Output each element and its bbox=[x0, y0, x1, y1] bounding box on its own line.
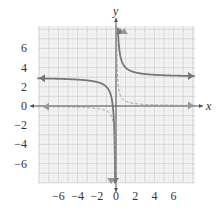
x-axis-label: x bbox=[205, 99, 212, 113]
y-tick-label: −2 bbox=[14, 118, 27, 132]
y-axis-arrow-icon bbox=[114, 18, 118, 22]
y-tick-label: 6 bbox=[21, 41, 27, 55]
hyperbola-graph: xy−6−4−202466420−2−4−6 bbox=[0, 0, 221, 211]
y-tick-label: −6 bbox=[14, 157, 27, 171]
x-tick-label: −4 bbox=[71, 189, 84, 203]
x-axis-arrow-left-icon bbox=[30, 104, 34, 108]
x-axis-arrow-icon bbox=[199, 104, 203, 108]
x-tick-label: 2 bbox=[132, 189, 138, 203]
x-tick-label: 4 bbox=[151, 189, 157, 203]
y-tick-label: 2 bbox=[21, 80, 27, 94]
y-axis-label: y bbox=[112, 4, 119, 18]
x-tick-label: 0 bbox=[113, 189, 119, 203]
y-tick-label: 0 bbox=[21, 99, 27, 113]
x-tick-label: −6 bbox=[52, 189, 65, 203]
x-tick-label: −2 bbox=[90, 189, 103, 203]
x-tick-label: 6 bbox=[171, 189, 177, 203]
y-tick-label: −4 bbox=[14, 137, 27, 151]
y-tick-label: 4 bbox=[21, 61, 27, 75]
